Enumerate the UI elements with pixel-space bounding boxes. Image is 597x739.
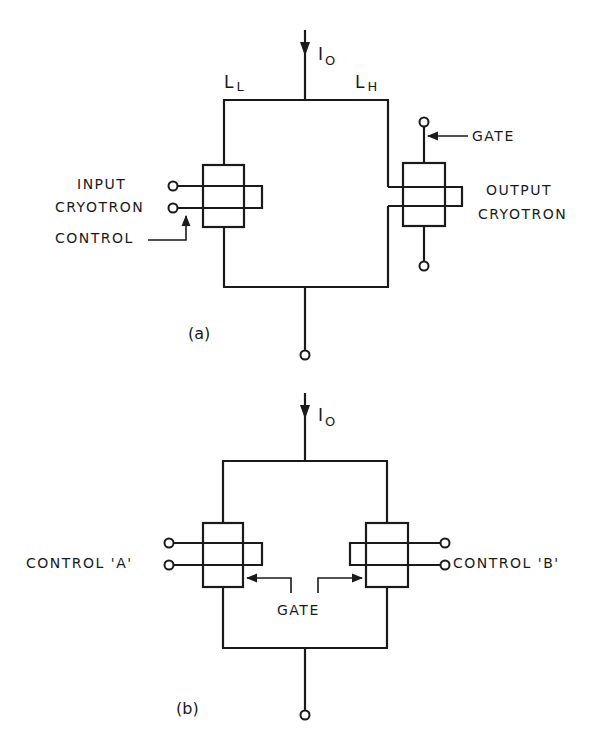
diagram-part-b: IO CONTROL 'A' CONTROL 'B' — [26, 393, 560, 720]
input-cryotron-label-1: INPUT — [77, 176, 126, 192]
control-a-terminal-top — [165, 539, 174, 548]
caption-b: (b) — [176, 699, 199, 718]
input-terminal-top — [169, 182, 178, 191]
control-a-terminal-bottom — [165, 561, 174, 570]
output-terminal — [301, 711, 310, 720]
gate-pointer-right — [318, 578, 362, 593]
output-terminal — [301, 351, 310, 360]
control-label: CONTROL — [55, 230, 134, 246]
output-cryotron-label-1: OUTPUT — [486, 182, 552, 198]
current-label: IO — [318, 405, 335, 429]
diagram-part-a: IO LL LH INPUT CRYOTRON CONTROL — [55, 30, 567, 360]
current-label: IO — [318, 44, 335, 68]
control-b-terminal-bottom — [441, 561, 450, 570]
input-cryotron-label-2: CRYOTRON — [55, 199, 144, 215]
gate-label: GATE — [277, 602, 320, 618]
input-cryotron — [169, 165, 263, 227]
control-a-label: CONTROL 'A' — [26, 555, 133, 571]
current-input-arrow — [300, 393, 310, 461]
gate-label: GATE — [472, 128, 515, 144]
output-cryotron-label-2: CRYOTRON — [478, 206, 567, 222]
caption-a: (a) — [188, 324, 210, 343]
cryotron-b — [350, 523, 450, 587]
inductance-high-label: LH — [355, 72, 377, 94]
control-b-label: CONTROL 'B' — [453, 555, 560, 571]
output-cryotron — [388, 118, 462, 271]
current-input-arrow — [300, 30, 310, 100]
inductance-low-label: LL — [224, 72, 244, 94]
input-terminal-bottom — [169, 204, 178, 213]
gate-pointer-left — [247, 578, 291, 593]
gate-terminal-bottom — [420, 262, 429, 271]
gate-terminal-top — [420, 118, 429, 127]
control-b-terminal-top — [441, 539, 450, 548]
control-pointer — [148, 216, 186, 240]
cryotron-circuit-diagram: IO LL LH INPUT CRYOTRON CONTROL — [0, 0, 597, 739]
